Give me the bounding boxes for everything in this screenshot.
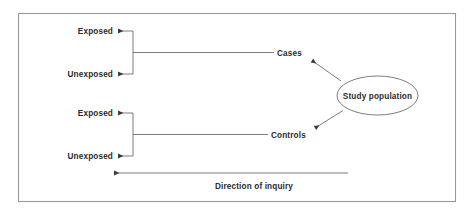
case-control-diagram: Exposed Unexposed Cases Exposed Unexpose… <box>0 0 473 212</box>
controls-label: Controls <box>271 131 306 140</box>
diagram-canvas: Exposed Unexposed Cases Exposed Unexpose… <box>0 0 473 212</box>
cases-unexposed-label: Unexposed <box>68 70 113 79</box>
direction-of-inquiry-label: Direction of inquiry <box>215 182 293 191</box>
controls-unexposed-label: Unexposed <box>68 152 113 161</box>
population-to-cases-arrow <box>312 61 341 82</box>
study-population-label: Study population <box>343 92 412 101</box>
population-to-controls-arrow <box>315 111 343 129</box>
cases-exposed-label: Exposed <box>78 27 113 36</box>
controls-exposed-label: Exposed <box>78 109 113 118</box>
cases-label: Cases <box>277 49 302 58</box>
